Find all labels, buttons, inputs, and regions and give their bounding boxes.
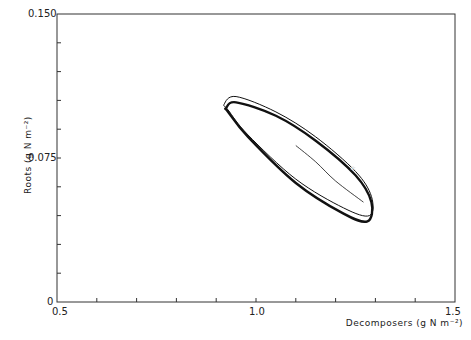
x-tick-label: 1.5 <box>445 306 461 317</box>
phase-plot: * <box>0 0 471 340</box>
plot-frame <box>57 14 455 302</box>
y-axis-label: Roots (g N m⁻²) <box>23 115 33 195</box>
x-axis-label: Decomposers (g N m⁻²) <box>346 318 463 328</box>
y-tick-label: 0.150 <box>28 8 57 19</box>
limit-cycle-line <box>224 96 373 216</box>
equilibrium-marker-icon: * <box>351 165 356 176</box>
limit-cycle-line <box>225 102 372 222</box>
x-tick-label: 0.5 <box>52 306 68 317</box>
x-tick-label: 1.0 <box>249 306 265 317</box>
